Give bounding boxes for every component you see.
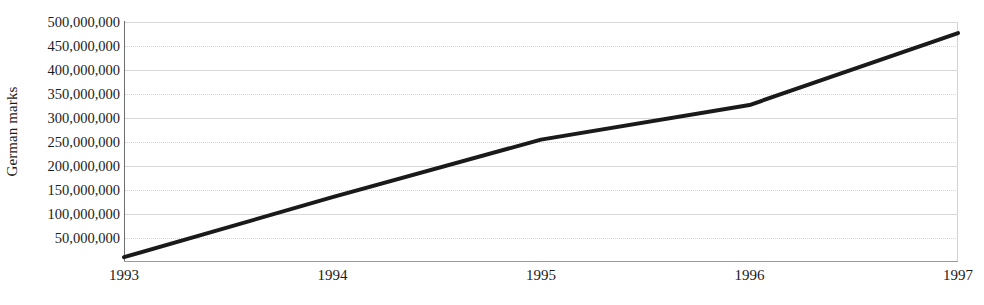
y-axis-tick-label: 450,000,000	[24, 39, 120, 54]
y-axis-tick-label: 350,000,000	[24, 87, 120, 102]
y-axis-title-text: German marks	[5, 86, 22, 176]
x-axis-tick-labels: 19931994199519961997	[0, 266, 984, 296]
x-axis-tick-label: 1994	[318, 266, 348, 284]
x-axis-tick-label: 1993	[109, 266, 139, 284]
y-axis-tick-labels: 50,000,000100,000,000150,000,000200,000,…	[24, 0, 120, 285]
y-axis-tick-label: 150,000,000	[24, 183, 120, 198]
x-axis-tick-label: 1996	[735, 266, 765, 284]
x-axis-tick-label: 1995	[526, 266, 556, 284]
line-chart: German marks 50,000,000100,000,000150,00…	[0, 0, 984, 305]
y-axis-tick-label: 400,000,000	[24, 63, 120, 78]
y-axis-tick-label: 500,000,000	[24, 15, 120, 30]
series-polyline	[124, 33, 958, 257]
x-axis-tick-label: 1997	[943, 266, 973, 284]
y-axis-tick-label: 300,000,000	[24, 111, 120, 126]
y-axis-tick-label: 200,000,000	[24, 159, 120, 174]
plot-area	[124, 22, 958, 262]
y-axis-tick-label: 100,000,000	[24, 207, 120, 222]
y-axis-tick-label: 250,000,000	[24, 135, 120, 150]
series-line	[124, 22, 958, 262]
y-axis-title: German marks	[0, 0, 26, 262]
y-axis-tick-label: 50,000,000	[24, 231, 120, 246]
